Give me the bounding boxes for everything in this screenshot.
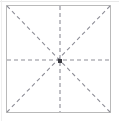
center-point xyxy=(58,59,62,63)
figure-container xyxy=(0,0,119,121)
